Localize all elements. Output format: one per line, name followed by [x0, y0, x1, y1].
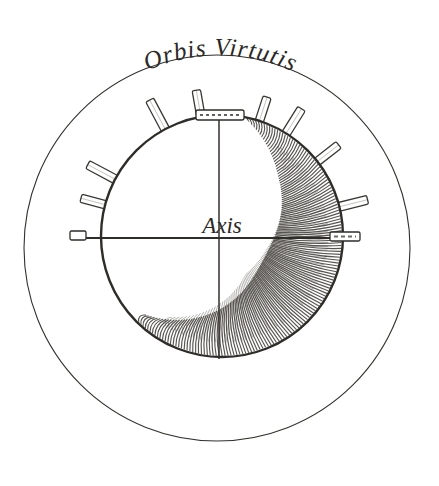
plate-title-textpath: Orbis Virtutis [139, 33, 302, 76]
diagram-canvas: Orbis Virtutis [0, 0, 439, 486]
plate-title: Orbis Virtutis [139, 33, 302, 76]
axis-label: Axis [200, 213, 242, 238]
engraving-plate: Orbis Virtutis [0, 0, 439, 486]
axis-cap-left [70, 231, 86, 240]
